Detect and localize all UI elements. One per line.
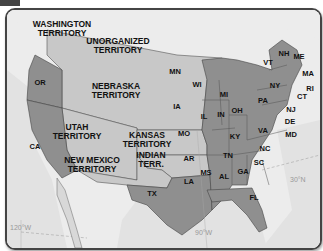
label-fl: FL bbox=[249, 194, 258, 202]
label-nj: NJ bbox=[286, 106, 296, 114]
label-wi: WI bbox=[192, 81, 201, 89]
map-frame: WASHINGTONTERRITORY UNORGANIZEDTERRITORY… bbox=[5, 8, 322, 250]
label-sc: SC bbox=[254, 159, 264, 167]
label-pa: PA bbox=[258, 97, 268, 105]
label-al: AL bbox=[219, 173, 229, 181]
label-utah-territory: UTAHTERRITORY bbox=[53, 123, 102, 141]
label-ri: RI bbox=[306, 85, 314, 93]
label-de: DE bbox=[285, 118, 295, 126]
label-vt: VT bbox=[263, 59, 273, 67]
label-lon-90w: 90°W bbox=[195, 229, 212, 236]
label-ms: MS bbox=[200, 169, 211, 177]
label-nebraska-territory: NEBRASKATERRITORY bbox=[92, 82, 141, 100]
label-nh: NH bbox=[279, 50, 290, 58]
label-indian-territory: INDIANTERR. bbox=[136, 151, 165, 169]
label-oh: OH bbox=[231, 107, 242, 115]
label-ny: NY bbox=[270, 82, 280, 90]
label-washington-territory: WASHINGTONTERRITORY bbox=[33, 20, 91, 38]
label-ia: IA bbox=[173, 103, 181, 111]
corner-tab bbox=[0, 0, 20, 6]
label-unorganized-territory: UNORGANIZEDTERRITORY bbox=[86, 37, 149, 55]
label-tn: TN bbox=[223, 152, 233, 160]
label-or: OR bbox=[34, 79, 45, 87]
label-mi: MI bbox=[220, 91, 228, 99]
label-lat-30n: 30°N bbox=[290, 176, 306, 183]
label-ky: KY bbox=[230, 133, 240, 141]
label-la: LA bbox=[184, 178, 194, 186]
label-new-mexico-territory: NEW MEXICOTERRITORY bbox=[64, 156, 120, 174]
label-ct: CT bbox=[297, 93, 307, 101]
label-va: VA bbox=[258, 127, 268, 135]
label-kansas-territory: KANSASTERRITORY bbox=[123, 131, 172, 149]
label-mo: MO bbox=[178, 130, 190, 138]
label-in: IN bbox=[217, 111, 225, 119]
label-lon-120w: 120°W bbox=[10, 224, 31, 231]
label-mn: MN bbox=[169, 68, 181, 76]
label-ma: MA bbox=[302, 70, 314, 78]
label-ga: GA bbox=[237, 168, 248, 176]
label-me: ME bbox=[293, 53, 304, 61]
label-il: IL bbox=[201, 113, 208, 121]
label-md: MD bbox=[285, 131, 297, 139]
label-ca: CA bbox=[30, 143, 41, 151]
label-tx: TX bbox=[147, 190, 157, 198]
label-nc: NC bbox=[260, 145, 271, 153]
label-ar: AR bbox=[184, 155, 195, 163]
